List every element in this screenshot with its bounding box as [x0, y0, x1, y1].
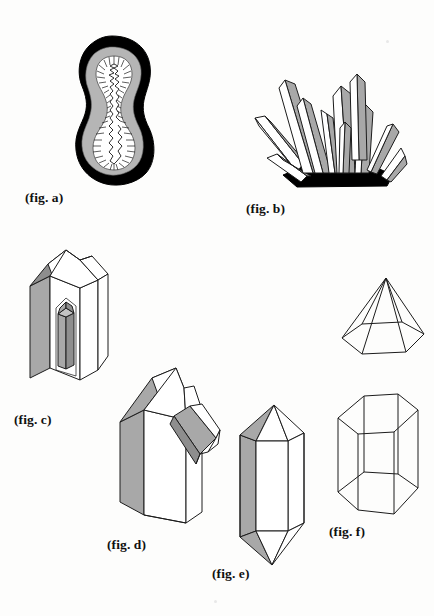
caption-figure-a: (fig. a) [25, 190, 63, 206]
scan-speck-bottom [214, 600, 217, 603]
caption-figure-d: (fig. d) [107, 537, 146, 553]
caption-figure-e: (fig. e) [212, 566, 250, 582]
caption-figure-b: (fig. b) [246, 201, 285, 217]
figure-a-geode [52, 30, 182, 190]
illustration-plate: (fig. a) [0, 0, 434, 616]
caption-figure-c: (fig. c) [14, 412, 52, 428]
figure-b-crystal-cluster [245, 60, 410, 195]
figure-e-doubly-terminated-crystal [226, 395, 331, 560]
caption-figure-f: (fig. f) [329, 524, 365, 540]
scan-speck [386, 40, 389, 43]
figure-f-hexagonal-prism-wireframe [332, 388, 428, 533]
figure-hexagonal-pyramid-wireframe [336, 272, 432, 372]
inner-phantom-crystal [58, 302, 74, 369]
figure-d-crystal-with-parasite [112, 360, 232, 535]
